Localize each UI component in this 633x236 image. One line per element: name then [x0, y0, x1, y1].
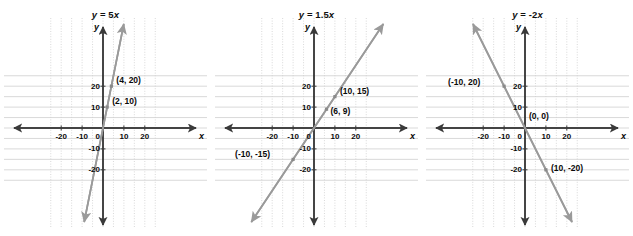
y-tick-label: -10: [83, 144, 100, 153]
coordinate-plane: [0, 0, 211, 236]
x-tick-label: -20: [265, 132, 279, 141]
x-axis-name: x: [410, 131, 415, 141]
y-tick-label: -10: [505, 144, 522, 153]
plotted-line: [473, 24, 572, 222]
coordinate-plane: [211, 0, 422, 236]
x-tick-label: -10: [497, 132, 511, 141]
x-tick-label: 20: [138, 132, 152, 141]
x-axis-name: x: [199, 131, 204, 141]
x-tick-label: 10: [328, 132, 342, 141]
point-label: (6, 9): [331, 106, 351, 116]
y-tick-label: -20: [294, 165, 311, 174]
point-label: (-10, -15): [235, 149, 270, 159]
axes: [436, 27, 618, 225]
x-tick-label: -20: [54, 132, 68, 141]
x-tick-label: 10: [117, 132, 131, 141]
x-tick-label: 20: [349, 132, 363, 141]
y-tick-label: -20: [83, 165, 100, 174]
graph-panel: y = 5x-20-10010202010-10-20xy(4, 20)(2, …: [0, 0, 211, 236]
plotted-line: [251, 24, 383, 222]
y-tick-label: 20: [505, 82, 522, 91]
x-tick-label: -20: [476, 132, 490, 141]
x-tick-label: 0: [305, 132, 311, 141]
equation-title: y = -2x: [422, 9, 633, 20]
axes: [14, 27, 196, 225]
y-tick-label: 10: [294, 103, 311, 112]
x-axis-name: x: [621, 131, 626, 141]
y-tick-label: 10: [83, 103, 100, 112]
y-tick-label: 10: [505, 103, 522, 112]
equation-title: y = 5x: [0, 9, 211, 20]
x-tick-label: 20: [560, 132, 574, 141]
point-label: (0, 0): [529, 111, 549, 121]
y-tick-label: 20: [294, 82, 311, 91]
point-label: (4, 20): [116, 75, 141, 85]
x-tick-label: -10: [75, 132, 89, 141]
x-tick-label: 10: [539, 132, 553, 141]
plotted-line: [84, 24, 124, 222]
x-tick-label: -10: [286, 132, 300, 141]
coordinate-plane: [422, 0, 633, 236]
y-tick-label: -10: [294, 144, 311, 153]
point-label: (-10, 20): [448, 77, 480, 87]
grid-lines: [4, 18, 207, 228]
x-tick-label: 0: [94, 132, 100, 141]
x-tick-label: 0: [516, 132, 522, 141]
point-label: (2, 10): [112, 96, 137, 106]
grid-lines: [426, 18, 629, 228]
three-graph-figure: y = 5x-20-10010202010-10-20xy(4, 20)(2, …: [0, 0, 633, 236]
y-axis-name: y: [516, 22, 521, 32]
point-label: (10, 15): [340, 86, 369, 96]
graph-panel: y = -2x-20-10010202010-10-20xy(-10, 20)(…: [422, 0, 633, 236]
equation-title: y = 1.5x: [211, 9, 422, 20]
graph-panel: y = 1.5x-20-10010202010-10-20xy(10, 15)(…: [211, 0, 422, 236]
y-axis-name: y: [94, 22, 99, 32]
y-tick-label: -20: [505, 165, 522, 174]
y-axis-name: y: [305, 22, 310, 32]
point-label: (10, -20): [551, 163, 583, 173]
y-tick-label: 20: [83, 82, 100, 91]
